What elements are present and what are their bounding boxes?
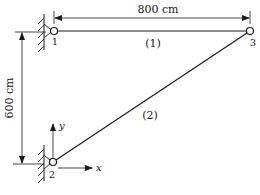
element-1-label: (1) [145, 37, 161, 50]
x-axis-label: x [96, 162, 102, 173]
element-2-bar [56, 33, 247, 160]
node-3 [247, 28, 254, 35]
vertical-dimension-label: 600 cm [3, 77, 16, 119]
horizontal-dimension-label: 800 cm [137, 3, 179, 16]
node-1 [51, 28, 58, 35]
horizontal-dimension: 800 cm [54, 3, 250, 24]
node-2-label: 2 [49, 169, 55, 180]
node-1-label: 1 [52, 36, 58, 47]
vertical-dimension: 600 cm [3, 32, 46, 164]
truss-diagram: 800 cm 600 cm (1) (2) y x [0, 0, 260, 195]
wall-support-node-1 [38, 14, 51, 52]
node-3-label: 3 [250, 37, 256, 48]
y-axis-label: y [58, 120, 65, 131]
coordinate-axes: y x [53, 120, 102, 173]
node-2 [50, 159, 57, 166]
element-2-label: (2) [142, 109, 158, 122]
